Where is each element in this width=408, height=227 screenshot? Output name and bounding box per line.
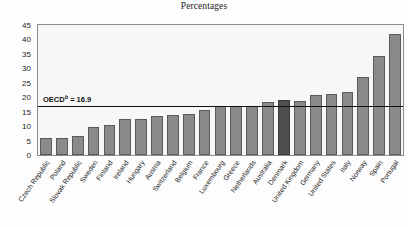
y-tick-label: 35 — [22, 49, 31, 58]
plot-area: OECDb = 16.9 — [37, 24, 404, 156]
bar-greece — [230, 106, 242, 155]
x-axis-labels: Czech RepublicPolandSlovak RepublicSwede… — [37, 156, 404, 227]
bar-belgium — [183, 114, 195, 155]
bar-denmark — [278, 100, 290, 155]
bar-poland — [56, 138, 68, 155]
y-tick-label: 40 — [22, 35, 31, 44]
bar-slovak-republic — [72, 136, 84, 155]
bar-united-states — [326, 94, 338, 155]
y-tick-label: 20 — [22, 93, 31, 102]
bar-finland — [104, 125, 116, 155]
chart-figure: Percentages 051015202530354045 OECDb = 1… — [0, 0, 408, 227]
y-tick-label: 15 — [22, 107, 31, 116]
y-axis: 051015202530354045 — [0, 24, 34, 156]
bar-czech-republic — [40, 138, 52, 155]
bar-norway — [357, 77, 369, 155]
bars-container — [38, 25, 403, 155]
bar-germany — [310, 95, 322, 155]
bar-ireland — [119, 119, 131, 155]
y-tick-label: 30 — [22, 64, 31, 73]
y-tick-label: 0 — [27, 151, 31, 160]
bar-france — [199, 110, 211, 155]
bar-netherlands — [246, 106, 258, 155]
bar-united-kingdom — [294, 101, 306, 155]
y-tick-label: 45 — [22, 21, 31, 30]
bar-switzerland — [167, 115, 179, 155]
oecd-average-label: OECDb = 16.9 — [43, 95, 91, 104]
y-tick-label: 5 — [27, 136, 31, 145]
bar-luxembourg — [215, 106, 227, 155]
oecd-average-line — [38, 106, 403, 107]
bar-australia — [262, 102, 274, 155]
bar-italy — [342, 92, 354, 155]
bar-hungary — [135, 119, 147, 155]
bar-austria — [151, 116, 163, 155]
chart-title: Percentages — [0, 1, 408, 11]
y-tick-label: 25 — [22, 78, 31, 87]
bar-sweden — [88, 127, 100, 155]
y-tick-label: 10 — [22, 122, 31, 131]
bar-portugal — [389, 34, 401, 155]
